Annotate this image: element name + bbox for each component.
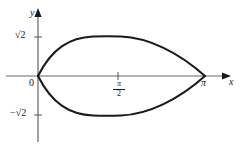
y-axis-label: y bbox=[30, 8, 34, 18]
pi-half-denominator: 2 bbox=[113, 90, 125, 98]
x-axis-label: x bbox=[229, 77, 233, 87]
pi-half-numerator: π bbox=[113, 80, 125, 88]
origin-label: 0 bbox=[29, 78, 34, 88]
y-tick-label-sqrt2-negative: −√2 bbox=[10, 108, 26, 118]
upper-curve bbox=[38, 36, 205, 76]
y-axis-arrowhead bbox=[34, 8, 41, 17]
x-tick-label-pi: π bbox=[201, 78, 206, 88]
x-tick-label-pi-half: π 2 bbox=[113, 80, 125, 99]
math-figure: y x 0 π √2 −√2 π 2 bbox=[0, 0, 240, 147]
plot-canvas bbox=[0, 0, 240, 147]
y-tick-label-sqrt2-positive: √2 bbox=[15, 30, 26, 40]
